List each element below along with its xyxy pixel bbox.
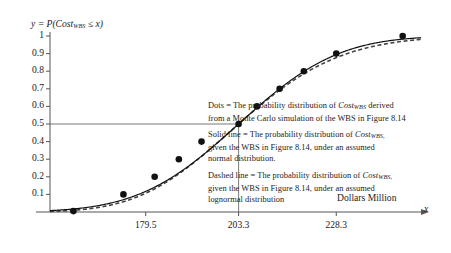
data-point-marker <box>120 191 127 198</box>
y-tick-label: 0.5 <box>10 117 44 128</box>
data-point-marker <box>301 68 308 75</box>
legend-solid-line1: Solid line = The probability distributio… <box>208 129 385 142</box>
x-tick-label: 228.3 <box>306 219 366 230</box>
data-point-marker <box>333 50 340 57</box>
legend-dashed-line1-variable: Cost <box>363 171 379 180</box>
legend-solid-line3: normal distribution. <box>208 153 385 164</box>
legend-solid-line1-variable: Cost <box>355 130 371 139</box>
legend-dots-line1-subscript: WBS <box>354 103 366 110</box>
legend-entry-dots: Dots = The probability distribution of C… <box>208 100 406 124</box>
data-point-marker <box>276 86 283 93</box>
y-tick-label: 0.8 <box>10 64 44 75</box>
figure-cdf-cost-wbs: y = P(CostWBS ≤ x) 0.10.20.30.40.50.60.7… <box>0 0 451 253</box>
y-tick-label: 0.4 <box>10 135 44 146</box>
data-point-marker <box>151 174 158 181</box>
legend-dashed-line1-pre: Dashed line = The probability distributi… <box>208 171 363 180</box>
legend-solid-line1-pre: Solid line = The probability distributio… <box>208 130 355 139</box>
legend-dots-line1-pre: Dots = The probability distribution of <box>208 101 338 110</box>
legend-solid-line2: given the WBS in Figure 8.14, under an a… <box>208 142 385 153</box>
data-point-marker <box>198 138 205 145</box>
x-tick-label: 203.3 <box>209 219 269 230</box>
x-tick-marks <box>146 212 337 216</box>
y-axis-title-suffix: ≤ x) <box>86 18 104 29</box>
data-point-marker <box>176 156 183 163</box>
y-tick-label: 0.3 <box>10 152 44 163</box>
y-tick-label: 0.7 <box>10 82 44 93</box>
y-axis-title-subscript: WBS <box>73 22 85 29</box>
legend-entry-solid-line: Solid line = The probability distributio… <box>208 129 385 164</box>
legend-dashed-line3: lognormal distribution <box>208 194 392 205</box>
legend-dashed-line2: given the WBS in Figure 8.14, under an a… <box>208 183 392 194</box>
x-axis-variable-label: x <box>424 203 428 214</box>
legend-dots-line1-variable: Cost <box>338 101 354 110</box>
chart-canvas <box>0 0 451 253</box>
legend-dashed-line1-subscript: WBS, <box>378 173 392 180</box>
y-tick-label: 0.1 <box>10 187 44 198</box>
x-tick-label: 179.5 <box>116 219 176 230</box>
legend-solid-line1-subscript: WBS, <box>371 132 385 139</box>
y-tick-label: 0.9 <box>10 47 44 58</box>
y-tick-label: 0.2 <box>10 170 44 181</box>
legend-dashed-line1: Dashed line = The probability distributi… <box>208 170 392 183</box>
legend-dots-line2: from a Monte Carlo simulation of the WBS… <box>208 113 406 124</box>
y-tick-label: 1 <box>10 29 44 40</box>
y-tick-label: 0.6 <box>10 99 44 110</box>
data-point-marker <box>70 208 77 215</box>
y-tick-marks <box>46 36 50 194</box>
y-axis-title-variable: Cost <box>56 18 74 29</box>
legend-dots-line1-post: derived <box>366 101 394 110</box>
data-point-marker <box>399 33 406 40</box>
y-axis-title: y = P(CostWBS ≤ x) <box>31 18 103 29</box>
legend-dots-line1: Dots = The probability distribution of C… <box>208 100 406 113</box>
y-axis-title-prefix: y = P( <box>31 18 56 29</box>
legend-entry-dashed-line: Dashed line = The probability distributi… <box>208 170 392 205</box>
